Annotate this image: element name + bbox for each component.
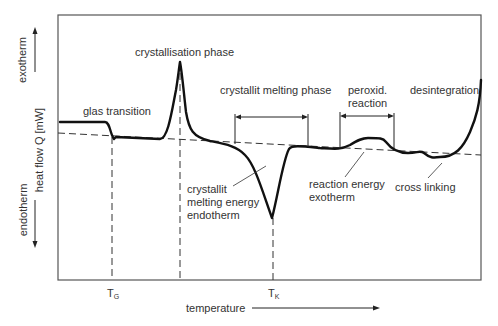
plot-frame bbox=[58, 15, 481, 280]
arrowhead-right bbox=[373, 306, 380, 311]
arrowhead-up bbox=[33, 27, 38, 34]
arrowhead-left bbox=[235, 115, 241, 120]
peroxid-label-line2: reaction bbox=[348, 97, 387, 110]
endotherm-label: endotherm bbox=[17, 175, 29, 245]
tg-marker-sub: G bbox=[114, 293, 119, 300]
melting-phase-label: crystallit melting phase bbox=[220, 84, 331, 97]
reaction-energy-line1: reaction energy bbox=[309, 178, 385, 191]
arrowhead-left bbox=[340, 114, 346, 119]
reaction-energy-line2: exotherm bbox=[309, 191, 355, 204]
arrowhead-right bbox=[302, 115, 308, 120]
arrowhead-down bbox=[33, 241, 38, 248]
cross-linking-label: cross linking bbox=[395, 181, 456, 194]
reaction-energy-leader bbox=[345, 152, 364, 177]
temperature-label: temperature bbox=[186, 302, 245, 315]
arrowhead-right bbox=[388, 114, 394, 119]
heat-flow-label: heat flow Q [mW] bbox=[33, 100, 45, 200]
tg-marker-name: T bbox=[107, 287, 114, 299]
desintegration-label: desintegration bbox=[410, 84, 479, 97]
tg-marker-label: TG bbox=[107, 287, 119, 303]
cross-linking-leader bbox=[428, 163, 442, 178]
crystallisation-label: crystallisation phase bbox=[135, 46, 234, 59]
melting-energy-leader bbox=[233, 166, 266, 186]
melting-energy-line1: crystallit bbox=[187, 183, 227, 196]
peroxid-label-line1: peroxid. bbox=[348, 84, 387, 97]
tk-marker-sub: K bbox=[275, 293, 280, 300]
dsc-diagram bbox=[0, 0, 498, 326]
tk-marker-name: T bbox=[268, 287, 275, 299]
glass-transition-label: glas transition bbox=[83, 105, 151, 118]
melting-energy-line3: endotherm bbox=[187, 209, 240, 222]
melting-energy-line2: melting energy bbox=[187, 196, 259, 209]
tk-marker-label: TK bbox=[268, 287, 279, 303]
exotherm-label: exotherm bbox=[16, 30, 28, 90]
